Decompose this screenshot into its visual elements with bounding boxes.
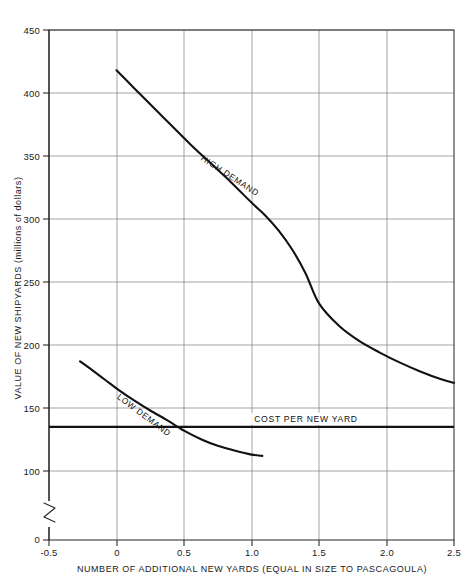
y-tickmarks — [43, 30, 49, 540]
plot-background — [49, 30, 454, 540]
y-tick-label: 100 — [24, 466, 40, 477]
cost-per-new-yard-label: COST PER NEW YARD — [254, 414, 358, 424]
y-tick-label: 150 — [24, 403, 40, 414]
y-tick-label: 400 — [24, 88, 40, 99]
x-tick-labels: -0.5 0 0.5 1.0 1.5 2.0 2.5 — [40, 547, 460, 558]
x-tick-label: 0 — [114, 547, 119, 558]
y-tick-label: 450 — [24, 25, 40, 36]
y-axis-title: VALUE OF NEW SHIPYARDS (millions of doll… — [13, 177, 23, 400]
shipyard-value-chart: 450 400 350 300 250 200 150 100 0 -0.5 0… — [0, 0, 474, 582]
chart-page: 450 400 350 300 250 200 150 100 0 -0.5 0… — [0, 0, 474, 582]
y-tick-labels: 450 400 350 300 250 200 150 100 0 — [24, 25, 40, 546]
y-tick-label: 300 — [24, 214, 40, 225]
x-tick-label: 1.0 — [245, 547, 259, 558]
x-tickmarks — [49, 540, 454, 546]
x-tick-label: 2.5 — [447, 547, 461, 558]
y-tick-label: 350 — [24, 151, 40, 162]
y-tick-label: 200 — [24, 340, 40, 351]
y-tick-label: 250 — [24, 277, 40, 288]
x-axis-title: NUMBER OF ADDITIONAL NEW YARDS (EQUAL IN… — [77, 564, 427, 574]
x-tick-label: 2.0 — [380, 547, 394, 558]
x-tick-label: 1.5 — [312, 547, 326, 558]
x-tick-label: 0.5 — [177, 547, 191, 558]
y-axis-break-icon — [44, 501, 55, 527]
y-origin-label: 0 — [35, 534, 40, 545]
x-tick-label: -0.5 — [40, 547, 57, 558]
